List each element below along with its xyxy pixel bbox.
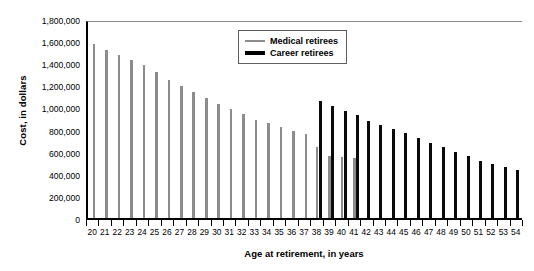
x-axis-tick-label: 34 (260, 228, 272, 236)
x-axis-tick-label: 23 (123, 228, 135, 236)
bar-career-retirees (417, 138, 420, 218)
x-axis-tick-label: 43 (373, 228, 385, 236)
legend-item: Career retirees (245, 47, 338, 59)
x-axis-tick-label: 27 (173, 228, 185, 236)
x-axis-tick-mark (186, 220, 187, 226)
chart-legend: Medical retireesCareer retirees (238, 30, 347, 64)
x-axis-tick-label: 33 (248, 228, 260, 236)
bar-career-retirees (331, 106, 334, 218)
x-axis-tick-label: 47 (422, 228, 434, 236)
bar-group (362, 19, 374, 218)
bar-group (487, 19, 499, 218)
legend-swatch-medical (245, 40, 265, 42)
legend-item: Medical retirees (245, 35, 338, 47)
bar-group (474, 19, 486, 218)
bar-group (163, 19, 175, 218)
bar-group (462, 19, 474, 218)
bar-group (88, 19, 100, 218)
x-axis-tick-mark (161, 220, 162, 226)
bar-career-retirees (404, 133, 407, 218)
x-axis-tick-label: 39 (323, 228, 335, 236)
x-axis-tick-label: 35 (273, 228, 285, 236)
legend-label: Medical retirees (270, 36, 338, 46)
bar-group (449, 19, 461, 218)
bar-group (387, 19, 399, 218)
bar-medical-retirees (205, 98, 208, 219)
bar-group (175, 19, 187, 218)
x-axis-tick-label: 51 (472, 228, 484, 236)
x-axis-tick-mark (310, 220, 311, 226)
x-axis-tick-label: 41 (348, 228, 360, 236)
y-axis-tick-label: 1,800,000 (8, 16, 80, 26)
bar-medical-retirees (192, 92, 195, 218)
bar-medical-retirees (105, 50, 108, 218)
x-axis-tick-label: 28 (186, 228, 198, 236)
bar-medical-retirees (168, 80, 171, 218)
x-axis-tick-label: 52 (485, 228, 497, 236)
bar-career-retirees (454, 152, 457, 218)
bar-group (200, 19, 212, 218)
bar-career-retirees (479, 161, 482, 218)
bar-group (188, 19, 200, 218)
bar-career-retirees (429, 143, 432, 218)
bar-group (150, 19, 162, 218)
x-axis-ticks (86, 220, 522, 227)
x-axis-tick-label: 26 (161, 228, 173, 236)
x-axis-tick-label: 29 (198, 228, 210, 236)
x-axis-tick-mark (497, 220, 498, 226)
bar-group (225, 19, 237, 218)
bar-medical-retirees (267, 123, 270, 218)
x-axis-tick-mark (447, 220, 448, 226)
x-axis-tick-label: 32 (235, 228, 247, 236)
x-axis-tick-label: 30 (211, 228, 223, 236)
x-axis-tick-label: 21 (98, 228, 110, 236)
bar-group (399, 19, 411, 218)
x-axis-tick-label: 25 (148, 228, 160, 236)
bar-career-retirees (392, 129, 395, 218)
bar-group (138, 19, 150, 218)
bar-medical-retirees (242, 114, 245, 218)
bar-career-retirees (379, 125, 382, 218)
bar-medical-retirees (217, 104, 220, 218)
x-axis-tick-mark (472, 220, 473, 226)
x-axis-tick-label: 36 (285, 228, 297, 236)
x-axis-tick-label: 45 (397, 228, 409, 236)
x-axis-tick-label: 40 (335, 228, 347, 236)
y-axis-tick-label: 0 (8, 215, 80, 225)
bar-career-retirees (491, 164, 494, 218)
x-axis-tick-mark (285, 220, 286, 226)
x-axis-tick-mark (397, 220, 398, 226)
x-axis-tick-mark (385, 220, 386, 226)
bar-group (113, 19, 125, 218)
x-axis-tick-labels: 2021222324252627282930313233343536373839… (86, 228, 522, 241)
bar-medical-retirees (93, 44, 96, 218)
bar-group (375, 19, 387, 218)
x-axis-tick-label: 20 (86, 228, 98, 236)
x-axis-tick-label: 24 (136, 228, 148, 236)
x-axis-tick-mark (123, 220, 124, 226)
x-axis-tick-mark (348, 220, 349, 226)
bar-group (100, 19, 112, 218)
x-axis-tick-label: 53 (497, 228, 509, 236)
x-axis-tick-label: 48 (435, 228, 447, 236)
legend-label: Career retirees (270, 48, 334, 58)
bar-group (125, 19, 137, 218)
x-axis-tick-label: 38 (310, 228, 322, 236)
x-axis-title: Age at retirement, in years (86, 248, 522, 259)
chart-container: Cost, in dollars 0200,000400,000600,0008… (0, 0, 534, 271)
x-axis-tick-label: 22 (111, 228, 123, 236)
bar-career-retirees (516, 170, 519, 218)
bar-group (213, 19, 225, 218)
bar-group (437, 19, 449, 218)
x-axis-tick-mark (422, 220, 423, 226)
bar-career-retirees (504, 167, 507, 218)
bar-medical-retirees (118, 55, 121, 218)
x-axis-tick-mark (373, 220, 374, 226)
y-axis-tick-label: 200,000 (8, 193, 80, 203)
bar-group (499, 19, 511, 218)
x-axis-tick-label: 37 (298, 228, 310, 236)
x-axis-tick-mark (173, 220, 174, 226)
legend-swatch-career (245, 51, 265, 55)
bar-group (350, 19, 362, 218)
bar-medical-retirees (255, 120, 258, 218)
